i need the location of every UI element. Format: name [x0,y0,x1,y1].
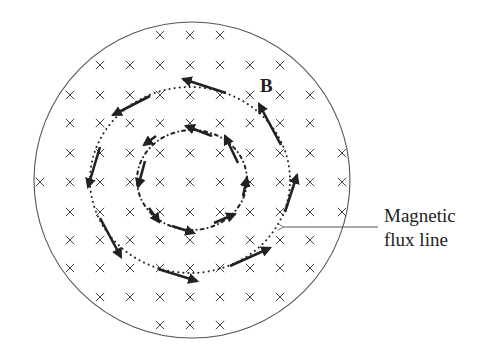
cross-icon [186,149,194,157]
cross-icon [66,119,74,127]
cross-icon [216,208,224,216]
b-arrow-icon [113,96,150,115]
cross-icon [186,264,194,272]
cross-icon [186,61,194,69]
cross-icon [186,91,194,99]
cross-icon [156,293,164,301]
outer-flux-loop [90,87,290,273]
cross-icon [96,91,104,99]
cross-icon [338,149,346,157]
cross-icon [156,61,164,69]
b-arrow-icon [285,175,297,212]
cross-icon [186,321,194,329]
cross-icon [126,119,134,127]
cross-icon [338,208,346,216]
cross-icon [186,293,194,301]
cross-icon [246,208,254,216]
cross-icon [246,264,254,272]
flux-line-label-line2: flux line [384,229,448,250]
cross-icon [96,208,104,216]
cross-icon [246,293,254,301]
cross-icon [276,149,284,157]
cross-icon [246,91,254,99]
cross-icon [216,321,224,329]
cross-icon [306,208,314,216]
cross-icon [36,178,44,186]
b-arrow-icon [259,104,281,145]
cross-icon [246,149,254,157]
cross-icon [216,119,224,127]
cross-icon [156,119,164,127]
cross-icon [66,178,74,186]
cross-icon [126,208,134,216]
cross-icon [276,178,284,186]
cross-icon [96,178,104,186]
cross-icon [96,236,104,244]
cross-icon [306,91,314,99]
cross-icon [216,31,224,39]
cross-icon [306,119,314,127]
cross-icon [126,91,134,99]
cross-icon [96,119,104,127]
cross-icon [66,91,74,99]
b-arrow-icon [138,161,145,187]
cross-icon [216,236,224,244]
b-arrow-icon [183,79,226,93]
cross-icon [216,149,224,157]
cross-icon [246,236,254,244]
cross-icon [156,236,164,244]
cross-icon [186,31,194,39]
cross-icon [126,149,134,157]
cross-icon [306,178,314,186]
cross-icon [216,61,224,69]
cross-icon [126,293,134,301]
b-arrow-icon [88,147,100,187]
cross-icon [126,61,134,69]
cross-icon [276,91,284,99]
b-arrow-icon [186,126,212,136]
cross-icon [66,236,74,244]
b-arrow-icon [158,269,197,281]
cross-icon [338,178,346,186]
cross-icon [246,61,254,69]
cross-icon [66,208,74,216]
cross-icon [96,264,104,272]
cross-icon [156,208,164,216]
cross-icon [246,119,254,127]
b-field-label: B [260,75,273,96]
cross-icon [306,149,314,157]
cross-icon [66,264,74,272]
cross-icon [276,61,284,69]
b-arrow-icon [230,248,270,266]
cross-icon [126,236,134,244]
cross-icon [126,264,134,272]
magnetic-flux-diagram: B Magnetic flux line [0,0,491,359]
cross-icon [306,236,314,244]
cross-icon [126,178,134,186]
cross-icon [156,149,164,157]
cross-icon [96,293,104,301]
cross-icon [216,178,224,186]
cross-icon [276,236,284,244]
flux-line-label-line1: Magnetic [384,205,456,226]
cross-icon [276,293,284,301]
cross-icon [186,178,194,186]
cross-icon [96,61,104,69]
cross-icon [306,264,314,272]
cross-icon [156,321,164,329]
cross-icon [186,208,194,216]
cross-icon [276,264,284,272]
cross-icon [276,119,284,127]
field-into-page-crosses [36,31,346,329]
cross-icon [216,293,224,301]
cross-icon [186,236,194,244]
cross-icon [156,178,164,186]
cross-icon [156,31,164,39]
cross-icon [66,149,74,157]
